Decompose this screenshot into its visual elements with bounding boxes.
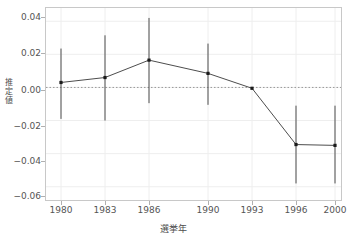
x-tick-label-3: 1990 (197, 205, 220, 215)
y-tick-label-2: 0.00 (5, 85, 41, 95)
plot-area (46, 8, 341, 200)
x-tick-label-2: 1986 (138, 205, 161, 215)
x-tick-label-1: 1983 (94, 205, 117, 215)
x-tick-label-5: 1996 (285, 205, 308, 215)
x-axis-title: 選挙年 (0, 222, 347, 235)
data-point-2000 (333, 144, 336, 147)
data-point-1983 (103, 76, 106, 79)
x-tick-label-4: 1993 (241, 205, 264, 215)
y-axis-tick-labels: 0.04 0.02 0.00 −0.02 −0.04 −0.06 (0, 0, 41, 239)
data-point-1986 (147, 59, 150, 62)
y-tick-label-5: −0.06 (5, 191, 41, 201)
estimate-trend-line (61, 60, 335, 145)
estimate-by-election-year-chart: 推 定 値 0.04 0.02 0.00 −0.02 −0.04 −0.06 1… (0, 0, 347, 239)
y-tick-label-1: 0.02 (5, 48, 41, 58)
data-point-1990 (206, 72, 209, 75)
data-point-1980 (59, 81, 62, 84)
grid-lines (46, 8, 341, 200)
y-tick-label-0: 0.04 (5, 12, 41, 22)
data-points (59, 59, 336, 147)
data-point-1993 (250, 87, 253, 90)
error-bars (61, 18, 335, 184)
x-tick-label-6: 2000 (324, 205, 347, 215)
x-tick-label-0: 1980 (50, 205, 73, 215)
y-tick-label-4: −0.04 (5, 156, 41, 166)
plot-panel (45, 7, 342, 201)
data-point-1996 (294, 143, 297, 146)
y-tick-label-3: −0.02 (5, 121, 41, 131)
